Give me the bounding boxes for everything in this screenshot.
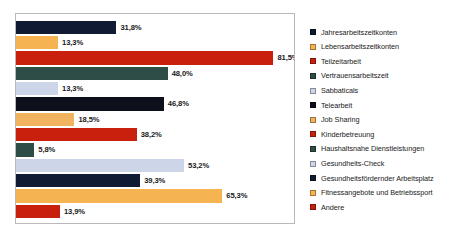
legend-item[interactable]: Sabbaticals — [310, 83, 457, 98]
legend-item-label: Gesundheitsfördernder Arbeitsplatz — [321, 175, 434, 182]
bar-row: 5,8% — [16, 143, 294, 158]
bar-value-label: 46,8% — [168, 101, 189, 109]
bars-container: 31,8%13,3%81,5%48,0%13,3%46,8%18,5%38,2%… — [16, 20, 294, 223]
legend-swatch-icon — [310, 131, 316, 137]
bar — [16, 159, 184, 172]
bar-value-label: 18,5% — [78, 116, 99, 124]
bar-row: 13,9% — [16, 204, 294, 219]
legend-item[interactable]: Fitnessangebote und Betriebssport — [310, 186, 457, 201]
bar-value-label: 53,2% — [188, 162, 209, 170]
bar — [16, 113, 74, 126]
bar — [16, 143, 34, 156]
plot-area: 31,8%13,3%81,5%48,0%13,3%46,8%18,5%38,2%… — [15, 13, 295, 224]
legend-swatch-icon — [310, 117, 316, 123]
bar-row: 18,5% — [16, 112, 294, 127]
bar-row: 46,8% — [16, 97, 294, 112]
bar-value-label: 38,2% — [141, 131, 162, 139]
legend-swatch-icon — [310, 161, 316, 167]
legend-item-label: Sabbaticals — [321, 87, 358, 94]
bar-row: 53,2% — [16, 158, 294, 173]
legend-item[interactable]: Haushaltsnahe Dienstleistungen — [310, 142, 457, 157]
legend-swatch-icon — [310, 44, 316, 50]
bar-value-label: 13,3% — [62, 39, 83, 47]
legend-item-label: Lebensarbeitszeitkonten — [321, 43, 399, 50]
legend-item-label: Andere — [321, 204, 344, 211]
bar — [16, 189, 222, 202]
bar — [16, 51, 273, 64]
bar-row: 81,5% — [16, 51, 294, 66]
legend-swatch-icon — [310, 73, 316, 79]
bar — [16, 128, 137, 141]
legend-swatch-icon — [310, 29, 316, 35]
legend-item[interactable]: Jahresarbeitszeitkonten — [310, 25, 457, 40]
bar-value-label: 39,3% — [144, 177, 165, 185]
legend-item-label: Kinderbetreuung — [321, 131, 374, 138]
bar-value-label: 13,9% — [64, 208, 85, 216]
bar-value-label: 5,8% — [38, 147, 55, 155]
legend-swatch-icon — [310, 146, 316, 152]
legend-item-label: Telearbeit — [321, 102, 352, 109]
chart-legend: JahresarbeitszeitkontenLebensarbeitszeit… — [310, 25, 457, 215]
legend-item[interactable]: Telearbeit — [310, 98, 457, 113]
bar-row: 31,8% — [16, 20, 294, 35]
legend-item[interactable]: Gesundheitsfördernder Arbeitsplatz — [310, 171, 457, 186]
bar-row: 13,3% — [16, 81, 294, 96]
legend-item[interactable]: Teilzeitarbeit — [310, 54, 457, 69]
bar — [16, 67, 168, 80]
bar — [16, 21, 116, 34]
legend-item-label: Gesundheits-Check — [321, 160, 384, 167]
bar-row: 13,3% — [16, 35, 294, 50]
legend-item[interactable]: Kinderbetreuung — [310, 127, 457, 142]
legend-swatch-icon — [310, 58, 316, 64]
bar — [16, 36, 58, 49]
legend-item[interactable]: Gesundheits-Check — [310, 156, 457, 171]
legend-item-label: Haushaltsnahe Dienstleistungen — [321, 145, 424, 152]
legend-item-label: Job Sharing — [321, 116, 359, 123]
bar-row: 39,3% — [16, 173, 294, 188]
bar-chart: 31,8%13,3%81,5%48,0%13,3%46,8%18,5%38,2%… — [0, 0, 457, 233]
legend-swatch-icon — [310, 190, 316, 196]
bar-row: 38,2% — [16, 127, 294, 142]
bar-row: 48,0% — [16, 66, 294, 81]
legend-item[interactable]: Lebensarbeitszeitkonten — [310, 40, 457, 55]
legend-item-label: Teilzeitarbeit — [321, 58, 361, 65]
legend-swatch-icon — [310, 88, 316, 94]
bar-value-label: 48,0% — [172, 70, 193, 78]
bar — [16, 82, 58, 95]
bar-value-label: 31,8% — [120, 24, 141, 32]
bar — [16, 97, 164, 110]
bar-row: 65,3% — [16, 189, 294, 204]
bar — [16, 205, 60, 218]
bar-value-label: 13,3% — [62, 85, 83, 93]
legend-swatch-icon — [310, 204, 316, 210]
legend-swatch-icon — [310, 175, 316, 181]
bar — [16, 174, 140, 187]
legend-item-label: Fitnessangebote und Betriebssport — [321, 189, 433, 196]
bar-value-label: 81,5% — [277, 55, 295, 63]
bar-value-label: 65,3% — [226, 193, 247, 201]
legend-item-label: Jahresarbeitszeitkonten — [321, 29, 397, 36]
legend-item[interactable]: Andere — [310, 200, 457, 215]
legend-item[interactable]: Vertrauensarbeitszeit — [310, 69, 457, 84]
legend-swatch-icon — [310, 102, 316, 108]
legend-item-label: Vertrauensarbeitszeit — [321, 72, 389, 79]
legend-item[interactable]: Job Sharing — [310, 113, 457, 128]
